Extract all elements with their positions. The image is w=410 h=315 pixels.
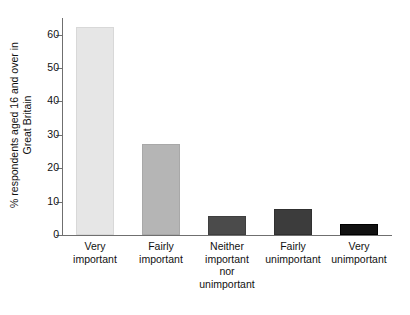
y-tick-label: 40 xyxy=(47,94,59,106)
y-tick-label: 10 xyxy=(47,195,59,207)
x-category-label-line: unimportant xyxy=(326,253,392,266)
x-axis-line xyxy=(62,235,392,236)
bar xyxy=(208,216,246,235)
x-category-label-line: Fairly xyxy=(260,240,326,253)
y-tick-label: 50 xyxy=(47,61,59,73)
bar xyxy=(142,144,180,235)
y-axis-title-line-2: Great Britain xyxy=(20,42,33,208)
bar xyxy=(76,27,114,235)
bar xyxy=(274,209,312,235)
x-category-label: Fairlyimportant xyxy=(128,240,194,265)
x-category-label: Veryimportant xyxy=(62,240,128,265)
y-tick-label: 0 xyxy=(53,228,59,240)
chart-figure: % respondents aged 16 and over in Great … xyxy=(0,0,410,315)
y-axis-title-line-1: % respondents aged 16 and over in xyxy=(8,42,21,208)
y-axis-title-text: % respondents aged 16 and over in Great … xyxy=(8,42,33,208)
plot-area: 0102030405060 xyxy=(62,18,392,236)
x-category-label-line: Very xyxy=(62,240,128,253)
y-axis-title: % respondents aged 16 and over in Great … xyxy=(0,0,40,250)
y-tick-label: 20 xyxy=(47,161,59,173)
x-category-label: Veryunimportant xyxy=(326,240,392,265)
x-category-label-line: important xyxy=(62,253,128,266)
x-category-label-line: important xyxy=(194,253,260,266)
x-category-label-line: nor xyxy=(194,265,260,278)
x-category-label-line: Fairly xyxy=(128,240,194,253)
y-axis-line xyxy=(62,18,63,236)
x-category-label-line: unimportant xyxy=(260,253,326,266)
x-category-label-line: unimportant xyxy=(194,278,260,291)
x-category-label-line: Very xyxy=(326,240,392,253)
x-category-label: Fairlyunimportant xyxy=(260,240,326,265)
x-category-label: Neitherimportantnorunimportant xyxy=(194,240,260,290)
x-category-label-line: Neither xyxy=(194,240,260,253)
y-tick-label: 30 xyxy=(47,128,59,140)
bar xyxy=(340,224,378,235)
x-category-label-line: important xyxy=(128,253,194,266)
y-tick-label: 60 xyxy=(47,28,59,40)
